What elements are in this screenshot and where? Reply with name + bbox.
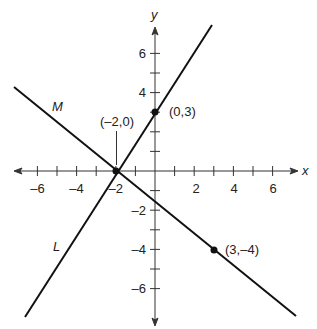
point-3-neg4: [211, 247, 218, 254]
x-axis: [14, 166, 298, 176]
x-tick-label: 6: [269, 181, 276, 196]
y-tick-label: –4: [132, 242, 146, 257]
x-tick-label: 2: [192, 181, 199, 196]
point-label-neg2-0: (–2,0): [100, 114, 134, 129]
x-tick-label: –6: [30, 181, 44, 196]
line-m-label: M: [52, 99, 63, 114]
y-axis: [150, 27, 160, 326]
y-tick-label: –2: [132, 203, 146, 218]
x-tick-label: 4: [230, 181, 237, 196]
point-neg2-0: [113, 168, 120, 175]
x-axis-label: x: [301, 163, 309, 178]
y-tick-label: 6: [139, 46, 146, 61]
y-tick-label: 4: [139, 85, 146, 100]
x-tick-label: –4: [69, 181, 83, 196]
line-l-label: L: [53, 239, 60, 254]
coordinate-plane: –6 –4 –2 2 4 6 6 4 –2 –4 –6 y x M L (–2,…: [0, 0, 317, 329]
point-label-3-neg4: (3,–4): [225, 242, 259, 257]
y-tick-label: –6: [132, 281, 146, 296]
point-0-3: [152, 109, 159, 116]
point-label-0-3: (0,3): [169, 104, 196, 119]
y-axis-label: y: [150, 7, 159, 22]
x-tick-labels: –6 –4 –2 2 4 6: [30, 181, 276, 196]
